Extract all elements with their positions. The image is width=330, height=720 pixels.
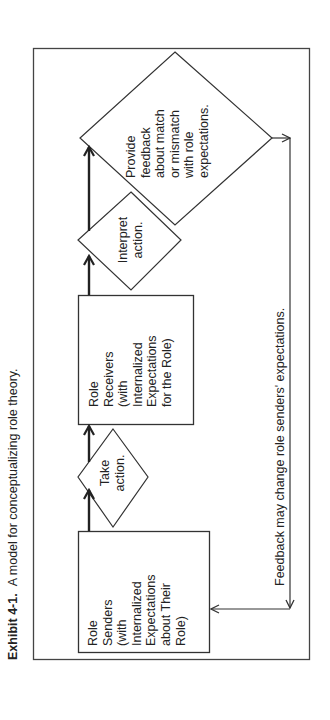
diagram-canvas: Exhibit 4-1. A model for conceptualizing… <box>0 0 330 720</box>
caption-label: Exhibit 4-1. <box>6 593 20 660</box>
feedback-loop-label: Feedback may change role senders' expect… <box>273 308 288 586</box>
interpret-action-label: Interpret action. <box>116 212 145 268</box>
figure-caption: Exhibit 4-1. A model for conceptualizing… <box>6 368 20 660</box>
provide-feedback-label: Provide feedback about match or mismatch… <box>124 104 212 178</box>
role-receivers-label: Role Receivers (with Internalized Expect… <box>87 335 175 407</box>
role-senders-label: Role Senders (with Internalized Expectat… <box>86 574 188 646</box>
caption-text: A model for conceptualizing role theory. <box>6 368 20 586</box>
take-action-label: Take action. <box>98 446 127 500</box>
